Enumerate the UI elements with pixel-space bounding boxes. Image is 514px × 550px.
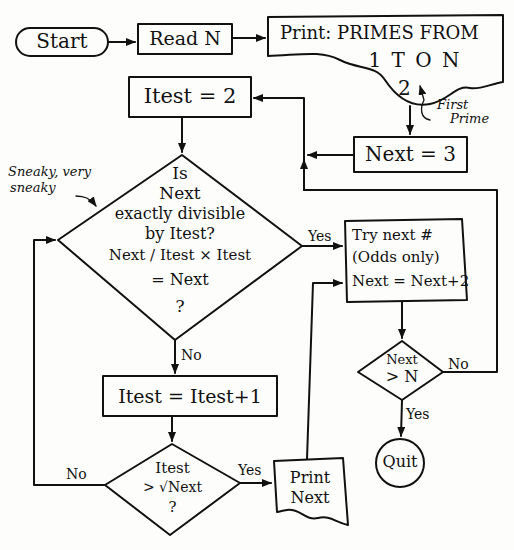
divisible-line-1: Next — [100, 185, 260, 202]
divisible-no-label: No — [181, 348, 202, 362]
first-prime-note-line1: First — [437, 98, 468, 111]
print-next-line2: Next — [274, 490, 346, 506]
sqrt-line1: Itest — [130, 461, 215, 476]
divisible-line-6: ? — [100, 298, 260, 315]
start-label: Start — [16, 31, 108, 51]
next-gt-n-line2: > N — [372, 369, 432, 385]
next-gt-n-yes-label: Yes — [406, 407, 430, 421]
print-header-line3: 2 — [398, 78, 411, 98]
sqrt-no-label: No — [66, 467, 87, 481]
next-gt-n-line1: Next — [372, 353, 432, 366]
divisible-yes-label: Yes — [308, 229, 332, 243]
divisible-line-0: Is — [100, 165, 260, 182]
sqrt-line2: > √Next — [130, 480, 215, 494]
flowchart-canvas: Start Read N Print: PRIMES FROM 1 T O N … — [0, 0, 514, 550]
sqrt-line3: ? — [130, 500, 215, 515]
try-next-line2: Next = Next+2 — [352, 274, 469, 289]
sqrt-yes-label: Yes — [238, 463, 262, 477]
sneaky-note-line2: sneaky — [10, 181, 56, 194]
divisible-line-2: exactly divisible — [80, 206, 280, 222]
divisible-line-3: by Itest? — [80, 226, 280, 242]
quit-label: Quit — [376, 454, 424, 470]
divisible-line-4: Next / Itest × Itest — [80, 248, 280, 263]
print-header-line1: Print: PRIMES FROM — [280, 24, 479, 42]
sneaky-note-line1: Sneaky, very — [8, 165, 91, 178]
itest-init-label: Itest = 2 — [129, 86, 251, 107]
first-prime-note-line2: Prime — [450, 112, 489, 125]
try-next-line0: Try next # — [352, 228, 433, 243]
itest-inc-label: Itest = Itest+1 — [103, 387, 277, 406]
next-init-label: Next = 3 — [354, 144, 467, 164]
print-header-line2: 1 T O N — [350, 50, 480, 70]
divisible-line-5: = Next — [100, 272, 260, 288]
next-gt-n-no-label: No — [448, 357, 469, 371]
print-next-line1: Print — [274, 470, 346, 486]
try-next-line1: (Odds only) — [352, 250, 440, 265]
read-n-label: Read N — [138, 29, 232, 48]
